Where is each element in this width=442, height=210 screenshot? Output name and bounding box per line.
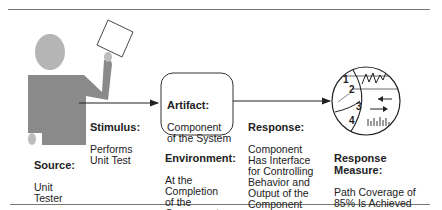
environment-text: At the Completion of the Component: [165, 174, 219, 210]
stimulus-text: Performs Unit Test: [90, 143, 133, 166]
response-label: Response: Component Has Interface for Co…: [248, 110, 313, 210]
environment-title: Environment:: [165, 152, 236, 164]
stimulus-label: Stimulus: Performs Unit Test: [90, 110, 140, 166]
svg-text:4: 4: [349, 115, 355, 126]
measurement-gauge-icon: 1 2 3 4: [332, 67, 400, 135]
source-title: Source:: [34, 159, 75, 171]
source-label: Source: Unit Tester: [34, 148, 75, 204]
source-text: Unit Tester: [34, 181, 63, 204]
response-measure-label: Response Measure: Path Coverage of 85% I…: [334, 141, 422, 210]
response-measure-text: Path Coverage of 85% Is Achieved within …: [334, 186, 422, 210]
svg-text:2: 2: [349, 84, 355, 95]
artifact-title: Artifact:: [167, 99, 231, 111]
stimulus-title: Stimulus:: [90, 121, 140, 133]
svg-text:3: 3: [356, 101, 362, 112]
response-text: Component Has Interface for Controlling …: [248, 143, 313, 210]
response-measure-title: Response Measure:: [334, 152, 422, 176]
response-title: Response:: [248, 121, 313, 133]
artifact-label: Artifact: Component of the System: [167, 88, 231, 144]
environment-label: Environment: At the Completion of the Co…: [165, 141, 236, 210]
